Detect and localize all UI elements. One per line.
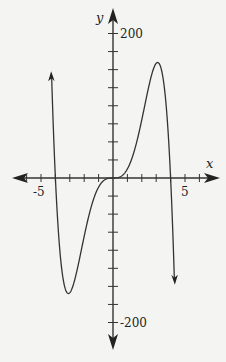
- y-axis-label: y: [95, 10, 104, 25]
- axes: [12, 8, 220, 350]
- x-tick-label-5: 5: [181, 185, 189, 199]
- y-tick-label-neg200: -200: [120, 316, 147, 330]
- plot-area: x y -5 5 200 -200: [0, 0, 226, 362]
- chart: x y -5 5 200 -200: [0, 0, 226, 362]
- x-tick-label-neg5: -5: [33, 185, 45, 199]
- y-tick-label-200: 200: [120, 27, 143, 41]
- x-axis-label: x: [206, 156, 214, 171]
